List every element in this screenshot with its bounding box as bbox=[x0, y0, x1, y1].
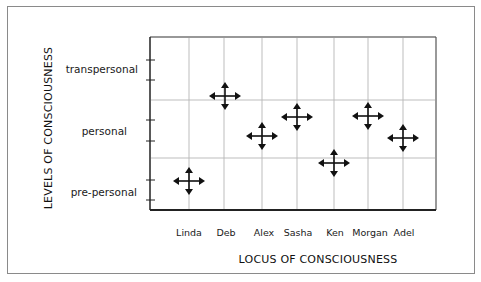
x-tick-sasha: Sasha bbox=[284, 227, 313, 238]
x-tick-alex: Alex bbox=[254, 227, 275, 238]
marker-deb-icon bbox=[209, 82, 241, 110]
x-tick-deb: Deb bbox=[216, 227, 235, 238]
x-tick-linda: Linda bbox=[176, 227, 202, 238]
x-tick-ken: Ken bbox=[326, 227, 344, 238]
marker-ken-icon bbox=[318, 149, 350, 177]
chart-svg: transpersonal personal pre-personal LEVE… bbox=[0, 0, 481, 282]
marker-alex-icon bbox=[246, 122, 278, 150]
x-tick-adel: Adel bbox=[394, 227, 415, 238]
gridlines bbox=[151, 38, 435, 209]
plot-area-border bbox=[150, 37, 436, 210]
y-axis-title: LEVELS OF CONSCIOUSNESS bbox=[42, 47, 55, 210]
marker-morgan-icon bbox=[352, 102, 384, 130]
marker-sasha-icon bbox=[281, 103, 313, 131]
marker-linda-icon bbox=[173, 167, 205, 195]
x-tick-morgan: Morgan bbox=[352, 227, 388, 238]
marker-adel-icon bbox=[387, 124, 419, 152]
y-tick-personal: personal bbox=[82, 125, 127, 137]
x-axis-title: LOCUS OF CONSCIOUSNESS bbox=[239, 253, 398, 266]
y-tick-transpersonal: transpersonal bbox=[66, 63, 138, 75]
y-tick-pre-personal: pre-personal bbox=[71, 186, 137, 198]
